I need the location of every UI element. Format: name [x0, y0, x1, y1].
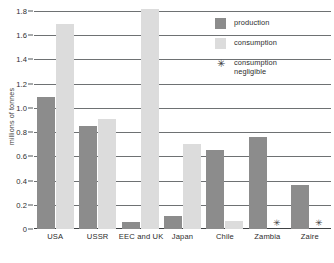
bar-chart: millions of tonnes 1.81.61.41.21.00.80.6…: [0, 0, 334, 263]
x-axis-tick-label: Zambia: [246, 232, 288, 241]
y-axis-tick-mark: [28, 35, 33, 36]
bar-production: [79, 126, 97, 229]
legend-label: consumption: [234, 38, 277, 48]
legend-label: production: [234, 18, 270, 28]
y-axis-tick-label: 1.2: [5, 79, 27, 88]
x-axis-tick-label: Zaire: [289, 232, 331, 241]
legend-swatch-production: [215, 18, 226, 29]
bar-consumption: [183, 144, 201, 229]
bar-consumption: [225, 221, 243, 229]
y-axis-tick-mark: [28, 11, 33, 12]
legend-item: consumption: [215, 38, 331, 49]
y-axis-tick-mark: [28, 59, 33, 60]
bar-consumption: [141, 9, 159, 229]
bar-group: [122, 11, 159, 229]
y-axis-tick-mark: [28, 229, 33, 230]
bar-group: [79, 11, 116, 229]
y-axis-tick-mark: [28, 83, 33, 84]
bar-production: [37, 97, 55, 229]
y-axis-tick-label: 0.2: [5, 200, 27, 209]
y-axis-tick-mark: [28, 132, 33, 133]
x-axis-tick-label: Japan: [161, 232, 203, 241]
y-axis-tick-label: 0.8: [5, 128, 27, 137]
y-axis-tick-mark: [28, 156, 33, 157]
asterisk-icon: ✳: [215, 58, 226, 69]
y-axis-tick-label: 1.4: [5, 55, 27, 64]
y-axis-tick-label: 1.6: [5, 31, 27, 40]
bar-group: [37, 11, 74, 229]
bar-production: [206, 150, 224, 229]
bar-production: [122, 222, 140, 229]
y-axis-tick-label: 0.4: [5, 176, 27, 185]
y-axis-tick-label: 0: [5, 225, 27, 234]
x-axis-tick-labels: USAUSSREEC and UKJapanChileZambiaZaire: [34, 232, 331, 248]
y-axis-tick-label: 0.6: [5, 152, 27, 161]
legend-swatch-consumption: [215, 38, 226, 49]
y-axis-tick-mark: [28, 204, 33, 205]
bar-production: [249, 137, 267, 229]
legend-label: consumptionnegligible: [234, 58, 277, 76]
y-axis-tick-label: 1.0: [5, 103, 27, 112]
consumption-negligible-marker: ✳: [310, 219, 328, 228]
y-axis-tick-mark: [28, 107, 33, 108]
consumption-negligible-marker: ✳: [268, 219, 286, 228]
y-axis-tick-label: 1.8: [5, 7, 27, 16]
legend-item: production: [215, 18, 331, 29]
bar-production: [291, 185, 309, 229]
bar-consumption: [56, 24, 74, 229]
x-axis-tick-label: USSR: [76, 232, 118, 241]
bar-consumption: [98, 119, 116, 229]
legend-item: ✳consumptionnegligible: [215, 58, 331, 76]
y-axis-tick-labels: 1.81.61.41.21.00.80.60.40.20: [0, 0, 27, 263]
x-axis-tick-label: Chile: [204, 232, 246, 241]
chart-legend: productionconsumption✳consumptionnegligi…: [215, 18, 331, 85]
bar-production: [164, 216, 182, 229]
y-axis-tick-mark: [28, 180, 33, 181]
x-axis-tick-label: USA: [34, 232, 76, 241]
x-axis-tick-label: EEC and UK: [119, 232, 161, 241]
bar-group: [164, 11, 201, 229]
